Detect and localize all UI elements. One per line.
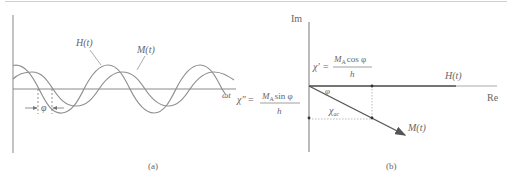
chi-double-prime-numerator: MAsin φ [261,91,293,102]
chi-prime-m-sub: A [342,59,347,65]
chi-prime-eq: = [323,61,329,72]
magnitude-subscript: ac [333,111,339,117]
m-label-leader [137,56,145,70]
chi-double-prime-formula: χ″ = MAsin φ h [236,91,300,116]
x-axis-label: ωt [222,90,231,100]
caption-a: (a) [148,161,158,171]
chi-double-prime-denominator: h [277,106,282,116]
chi-prime-formula: χ′ = MAcos φ h [312,54,372,79]
h-label-leader [90,50,101,65]
projection-point-im [308,117,311,120]
panel-a: φ H(t) M(t) ωt (a) [13,15,236,171]
chi-double-prime-eq: = [248,94,254,105]
imag-axis-label: Im [291,13,302,24]
real-axis-label: Re [487,92,499,103]
magnitude-label: χac [328,105,339,117]
vector-h-label: H(t) [444,70,462,82]
projection-point-re [371,85,374,88]
phase-label: φ [41,102,47,113]
panel-b: Im Re H(t) M(t) φ χac χ′ = MAcos φ h [236,13,499,171]
chi-double-prime-m-sub: A [270,96,275,102]
chi-double-prime-fn: sin φ [275,91,293,101]
caption-b: (b) [386,161,397,171]
chi-double-prime-symbol: χ″ [236,94,246,105]
vector-m [309,86,405,135]
chi-prime-fn: cos φ [347,54,366,64]
chi-prime-numerator: MAcos φ [333,54,366,65]
vector-m-label: M(t) [407,122,426,134]
curve-h-label: H(t) [75,37,93,49]
projection-point-tip [371,117,374,120]
figure-canvas: φ H(t) M(t) ωt (a) Im Re H(t) M(t) φ χac [0,0,512,180]
chi-prime-denominator: h [350,69,355,79]
curve-m-label: M(t) [136,44,155,56]
chi-prime-symbol: χ′ [312,61,320,72]
angle-label: φ [325,86,330,96]
